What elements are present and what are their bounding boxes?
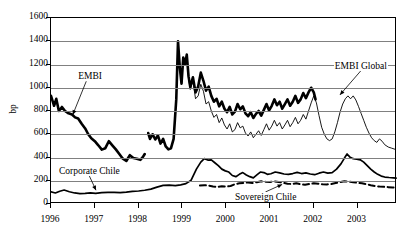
x-tick-label: 2000	[203, 214, 247, 224]
gridline	[51, 111, 395, 112]
y-tick-label: 1600	[2, 12, 48, 22]
gridline	[51, 158, 395, 159]
y-tick-label: 1200	[2, 59, 48, 69]
y-tick-label: 1000	[2, 82, 48, 92]
x-tick-label: 1997	[72, 214, 116, 224]
x-tick-label: 1999	[159, 214, 203, 224]
x-tick-label: 2002	[291, 214, 335, 224]
x-tick-mark	[181, 203, 182, 208]
series-annotation-label: EMBI Global	[334, 61, 388, 71]
series-line	[200, 181, 396, 187]
x-tick-mark	[313, 203, 314, 208]
x-tick-mark	[225, 203, 226, 208]
y-axis: bp 16001400120010008006004002000	[0, 0, 48, 237]
x-tick-label: 2003	[335, 214, 379, 224]
y-tick-label: 200	[2, 175, 48, 185]
x-tick-mark	[357, 203, 358, 208]
series-annotation-label: Corporate Chile	[58, 166, 121, 176]
x-tick-label: 1996	[28, 214, 72, 224]
chart-figure: bp 16001400120010008006004002000 1996199…	[0, 0, 410, 237]
y-tick-label: 800	[2, 105, 48, 115]
x-axis: 19961997199819992000200120022003	[0, 203, 410, 237]
x-tick-mark	[94, 203, 95, 208]
x-tick-label: 2001	[247, 214, 291, 224]
gridline	[51, 41, 395, 42]
x-tick-label: 1998	[116, 214, 160, 224]
x-tick-mark	[269, 203, 270, 208]
gridline	[51, 134, 395, 135]
gridline	[51, 181, 395, 182]
gridline	[51, 88, 395, 89]
series-annotation-label: EMBI	[77, 71, 103, 81]
series-line	[51, 96, 145, 161]
x-tick-mark	[138, 203, 139, 208]
x-tick-mark	[50, 203, 51, 208]
y-tick-label: 1400	[2, 35, 48, 45]
y-tick-label: 600	[2, 128, 48, 138]
series-annotation-label: Sovereign Chile	[234, 192, 297, 202]
y-tick-label: 400	[2, 152, 48, 162]
series-line	[148, 41, 315, 149]
